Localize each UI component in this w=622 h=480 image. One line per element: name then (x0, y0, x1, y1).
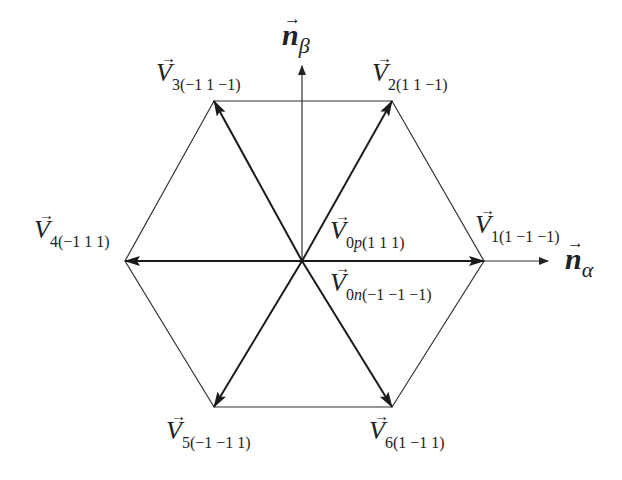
vector-v3-arrow (214, 101, 302, 261)
switching-state: (1 −1 1) (393, 434, 445, 451)
alpha-axis-label: →nα (565, 244, 593, 274)
vector-index-suffix: n (354, 286, 362, 303)
vector-arrow-icon: → (377, 51, 390, 66)
vector-index: 4 (50, 233, 58, 250)
vector-arrow-icon: → (39, 208, 52, 223)
switching-state: (1 −1 −1) (499, 228, 560, 245)
vector-arrow-icon: → (374, 409, 387, 424)
vector-arrow-icon: → (284, 10, 301, 27)
space-vector-diagram: →nβ →nα →V3(−1 1 −1) →V2(1 1 −1) →V4(−1 … (0, 0, 622, 480)
vector-index-suffix: p (354, 234, 362, 251)
hexagon-outline (125, 101, 484, 407)
vector-index: 0 (346, 234, 354, 251)
vector-index: 2 (388, 76, 396, 93)
vector-v4-label: →V4(−1 1 1) (34, 217, 110, 243)
switching-state: (−1 −1 −1) (362, 286, 432, 303)
vector-v0n-label: →V0n(−1 −1 −1) (330, 270, 432, 296)
vector-arrow-icon: → (480, 203, 493, 218)
beta-axis-label: →nβ (282, 20, 310, 50)
switching-state: (−1 1 1) (58, 233, 110, 250)
vector-v6-label: →V6(1 −1 1) (369, 418, 445, 444)
vector-index: 6 (385, 434, 393, 451)
vector-index: 0 (346, 286, 354, 303)
vector-v5-arrow (214, 261, 302, 407)
switching-state: (1 1 1) (362, 234, 405, 251)
vector-v2-label: →V2(1 1 −1) (372, 60, 448, 86)
switching-state: (−1 −1 1) (190, 434, 251, 451)
switching-state: (−1 1 −1) (180, 76, 241, 93)
vector-v3-label: →V3(−1 1 −1) (156, 60, 241, 86)
vector-arrow-icon: → (171, 409, 184, 424)
vector-arrow-icon: → (567, 234, 584, 251)
vector-arrow-icon: → (335, 209, 348, 224)
axis-subscript: α (582, 257, 594, 282)
vector-v0p-label: →V0p(1 1 1) (330, 218, 405, 244)
vector-v1-label: →V1(1 −1 −1) (475, 212, 560, 238)
vector-index: 1 (491, 228, 499, 245)
vector-index: 5 (182, 434, 190, 451)
vector-v5-label: →V5(−1 −1 1) (166, 418, 251, 444)
vector-index: 3 (172, 76, 180, 93)
vector-arrow-icon: → (335, 261, 348, 276)
axis-subscript: β (299, 33, 310, 58)
switching-state: (1 1 −1) (396, 76, 448, 93)
vector-arrow-icon: → (161, 51, 174, 66)
